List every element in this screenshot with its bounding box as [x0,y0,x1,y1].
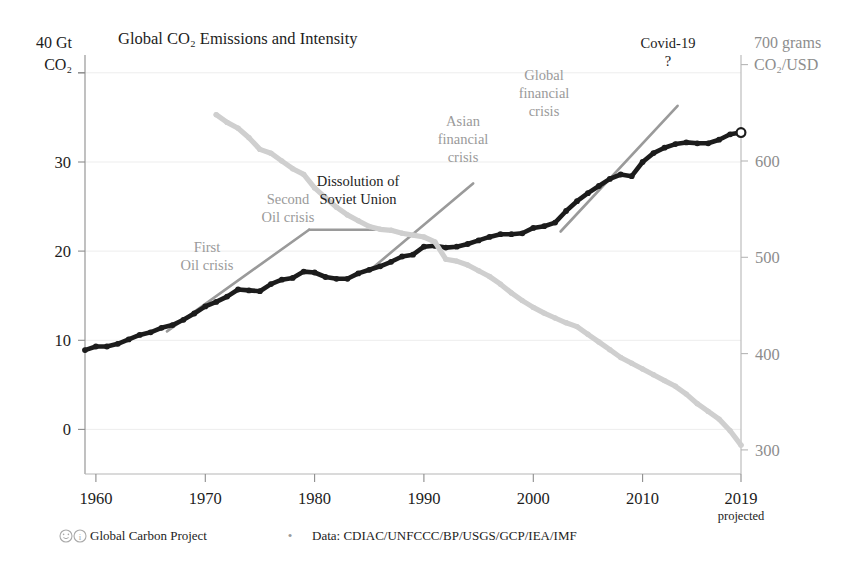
x-axis-tick-label: 1980 [298,489,331,508]
series-point [596,339,601,344]
series-point [727,131,733,137]
series-point [202,304,208,310]
series-point [596,183,602,189]
series-point [487,234,493,240]
annotation-line: Global [524,67,563,83]
series-point [487,274,492,279]
series-point [706,409,711,414]
series-point [410,232,415,237]
series-point [224,294,230,300]
x-axis-tick-label: 2010 [626,489,659,508]
series-point [399,231,404,236]
svg-text:CO₂/USD: CO₂/USD [754,56,818,73]
annotation-line: Asian [446,113,481,129]
series-point [421,234,426,239]
series-point [683,140,689,146]
series-point [213,299,219,305]
series-point [355,271,361,277]
series-point [312,270,318,276]
series-point [520,298,525,303]
series-point [574,324,579,329]
annotation-line: Dissolution of [317,173,400,189]
series-point [651,372,656,377]
series-point [607,176,613,182]
series-point [366,267,372,273]
series-point [82,347,88,353]
series-point [115,341,121,347]
series-point [585,190,591,196]
footer-source: Data: CDIAC/UNFCCC/BP/USGS/GCP/IEA/IMF [312,528,577,543]
series-point [476,268,481,273]
chart-background [0,0,853,570]
series-point [673,384,678,389]
series-point [563,320,568,325]
series-point [268,151,273,156]
annotation-line: Soviet Union [320,191,398,207]
svg-text:CO₂: CO₂ [44,56,72,73]
annotation-line: First [194,239,221,255]
series-point [214,112,219,117]
series-point [552,220,558,226]
series-point [399,254,405,260]
series-point [356,218,361,223]
footer: i Global Carbon Project • Data: CDIAC/UN… [60,528,577,543]
series-point [465,241,471,247]
series-point [148,329,154,335]
series-point [290,275,296,281]
footer-org: Global Carbon Project [90,528,207,543]
series-point [191,311,197,317]
series-point [159,325,165,331]
series-point [574,198,580,204]
x-axis-tick-sublabel: projected [718,509,765,523]
co2-emissions-intensity-chart: 0102030300400500600196019701980199020002… [0,0,853,570]
series-point [618,172,624,178]
series-point [662,145,668,151]
series-point [542,310,547,315]
series-point [716,416,721,421]
series-point [465,262,470,267]
series-point [290,166,295,171]
series-point [727,428,732,433]
series-point [246,288,252,294]
series-point [585,332,590,337]
left-axis-tick-label: 20 [55,242,72,261]
series-point [541,223,547,229]
series-point [673,141,679,147]
series-point [738,442,743,447]
series-point [498,282,503,287]
x-axis-tick-label: 1960 [79,489,112,508]
series-point [432,239,437,244]
x-axis-tick-label: 2019 [725,489,758,508]
series-point [301,269,307,275]
series-point [246,135,251,140]
series-point [410,252,416,258]
series-point [443,245,449,251]
series-point [268,281,274,287]
series-point [443,257,448,262]
series-point [607,347,612,352]
left-axis-tick-label: 30 [55,153,72,172]
series-point [301,172,306,177]
chart-title: Global CO₂ Emissions and Intensity [118,29,358,48]
series-point [170,322,176,328]
series-point [235,126,240,131]
series-point [388,259,394,265]
series-point [345,276,351,282]
series-point [257,288,263,294]
series-point [629,361,634,366]
x-axis-tick-label: 2000 [517,489,550,508]
series-point [552,315,557,320]
x-axis-tick-label: 1970 [189,489,222,508]
series-point [93,344,99,350]
series-point [694,140,700,146]
series-point [684,391,689,396]
series-point [334,276,340,282]
svg-text:700 grams: 700 grams [754,34,821,52]
annotation-line: crisis [529,103,560,119]
annotation-line: Oil crisis [262,209,315,225]
series-point [454,258,459,263]
right-axis-tick-label: 600 [755,152,780,171]
series-point [640,366,645,371]
x-axis-tick-label: 1990 [407,489,440,508]
left-axis-tick-label: 0 [63,420,71,439]
